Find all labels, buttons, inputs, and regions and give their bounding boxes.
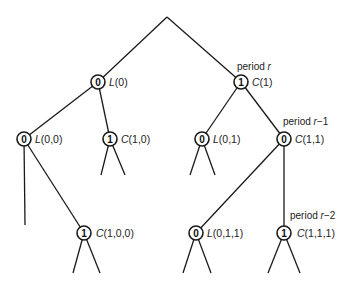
node-C111: 1 C(1,1,1) — [277, 226, 335, 240]
node-C11: 0 C(1,1) — [277, 132, 324, 146]
period-label-r-minus-2: period r−2 — [290, 210, 336, 221]
edge-root-C1 — [167, 17, 241, 82]
node-label: C(1,0) — [121, 133, 150, 145]
edge-C1-C11 — [241, 82, 284, 139]
node-value: 1 — [281, 228, 287, 239]
node-L01: 0 L(0,1) — [195, 132, 240, 146]
node-label: L(0,0) — [35, 133, 62, 145]
node-value: 1 — [107, 134, 113, 145]
node-C1: 1 C(1) — [234, 75, 272, 89]
node-label: C(1) — [252, 76, 272, 88]
node-label: C(1,1) — [295, 133, 324, 145]
period-label-r-minus-1: period r−1 — [283, 116, 329, 127]
node-L0: 0 L(0) — [91, 75, 128, 89]
node-label: L(0,1) — [213, 133, 240, 145]
edge-C11-L011 — [196, 139, 284, 233]
edge-root-L0 — [98, 17, 167, 82]
node-C10: 1 C(1,0) — [103, 132, 150, 146]
period-label-r: period r — [237, 61, 272, 72]
node-L011: 0 L(0,1,1) — [189, 226, 243, 240]
tree-edges — [24, 17, 300, 273]
node-L00: 0 L(0,0) — [17, 132, 62, 146]
node-value: 0 — [281, 134, 287, 145]
node-C100: 1 C(1,0,0) — [77, 226, 134, 240]
node-value: 1 — [238, 77, 244, 88]
node-label: C(1,1,1) — [297, 227, 335, 239]
node-value: 0 — [193, 228, 199, 239]
node-label: C(1,0,0) — [96, 227, 134, 239]
node-label: L(0) — [109, 76, 128, 88]
node-value: 0 — [95, 77, 101, 88]
edge-L0-L00 — [24, 82, 98, 139]
edge-L00-leaf — [24, 139, 25, 225]
edge-L00-C100 — [24, 139, 84, 233]
edge-C1-L01 — [202, 82, 241, 139]
node-value: 0 — [21, 134, 27, 145]
edge-L0-C10 — [98, 82, 110, 139]
node-value: 1 — [81, 228, 87, 239]
node-value: 0 — [199, 134, 205, 145]
node-label: L(0,1,1) — [207, 227, 243, 239]
game-tree-diagram: 0 L(0) 1 C(1) 0 L(0,0) 1 C(1,0) 0 L(0,1)… — [0, 0, 358, 289]
tree-svg: 0 L(0) 1 C(1) 0 L(0,0) 1 C(1,0) 0 L(0,1)… — [0, 0, 358, 289]
